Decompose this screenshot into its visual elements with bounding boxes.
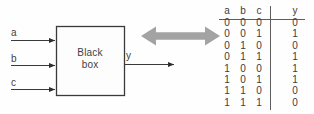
table-cell-y: 1 [286, 63, 304, 74]
table-cell-c: 1 [251, 74, 267, 85]
table-cell-b: 1 [235, 51, 251, 62]
table-cell-spacer [267, 85, 286, 96]
column-header-c: c [251, 4, 267, 17]
table-row: 0011 [219, 28, 304, 39]
table-cell-c: 1 [251, 51, 267, 62]
table-cell-c: 1 [251, 28, 267, 39]
table-cell-c: 0 [251, 63, 267, 74]
table-cell-spacer [267, 63, 286, 74]
table-row: 1011 [219, 74, 304, 85]
table-cell-y: 0 [286, 97, 304, 108]
table-cell-b: 0 [235, 17, 251, 28]
table-cell-y: 1 [286, 51, 304, 62]
table-cell-spacer [267, 74, 286, 85]
truth-table: a b c y 00000011010001111001101111001110 [219, 4, 311, 112]
table-row: 1001 [219, 63, 304, 74]
table-cell-b: 1 [235, 97, 251, 108]
black-box-truth-table-figure: Black box a b c y a b c y 00000011010001… [0, 0, 314, 114]
double-headed-arrow-icon [141, 27, 220, 46]
column-header-a: a [219, 4, 235, 17]
table-cell-y: 1 [286, 28, 304, 39]
truth-table-header-row: a b c y [219, 4, 304, 17]
table-cell-spacer [267, 40, 286, 51]
table-cell-y: 0 [286, 40, 304, 51]
input-label-b: b [11, 54, 17, 64]
table-cell-a: 0 [219, 51, 235, 62]
truth-table-grid: a b c y 00000011010001111001101111001110 [219, 4, 304, 108]
table-cell-c: 0 [251, 40, 267, 51]
table-row: 0111 [219, 51, 304, 62]
table-row: 1100 [219, 85, 304, 96]
table-cell-a: 0 [219, 40, 235, 51]
table-cell-a: 0 [219, 17, 235, 28]
black-box-title-line1: Black [56, 47, 124, 59]
table-cell-a: 1 [219, 97, 235, 108]
table-cell-spacer [267, 51, 286, 62]
table-row: 0100 [219, 40, 304, 51]
input-label-c: c [11, 78, 16, 88]
table-cell-a: 1 [219, 85, 235, 96]
table-cell-a: 1 [219, 74, 235, 85]
table-cell-c: 1 [251, 97, 267, 108]
table-cell-a: 1 [219, 63, 235, 74]
input-label-a: a [11, 28, 17, 38]
truth-table-body: 00000011010001111001101111001110 [219, 17, 304, 108]
output-label-y: y [126, 51, 131, 61]
table-cell-a: 0 [219, 28, 235, 39]
black-box-title-line2: box [56, 59, 124, 71]
column-divider-spacer [267, 4, 286, 17]
table-cell-c: 0 [251, 17, 267, 28]
table-cell-b: 0 [235, 28, 251, 39]
table-cell-b: 0 [235, 63, 251, 74]
table-cell-c: 0 [251, 85, 267, 96]
table-row: 0000 [219, 17, 304, 28]
table-cell-y: 1 [286, 74, 304, 85]
table-cell-b: 1 [235, 40, 251, 51]
table-cell-spacer [267, 28, 286, 39]
table-cell-spacer [267, 97, 286, 108]
table-cell-b: 1 [235, 85, 251, 96]
table-row: 1110 [219, 97, 304, 108]
table-cell-y: 0 [286, 17, 304, 28]
table-cell-spacer [267, 17, 286, 28]
table-cell-b: 0 [235, 74, 251, 85]
column-header-b: b [235, 4, 251, 17]
column-header-y: y [286, 4, 304, 17]
table-cell-y: 0 [286, 85, 304, 96]
black-box-title: Black box [56, 47, 124, 71]
